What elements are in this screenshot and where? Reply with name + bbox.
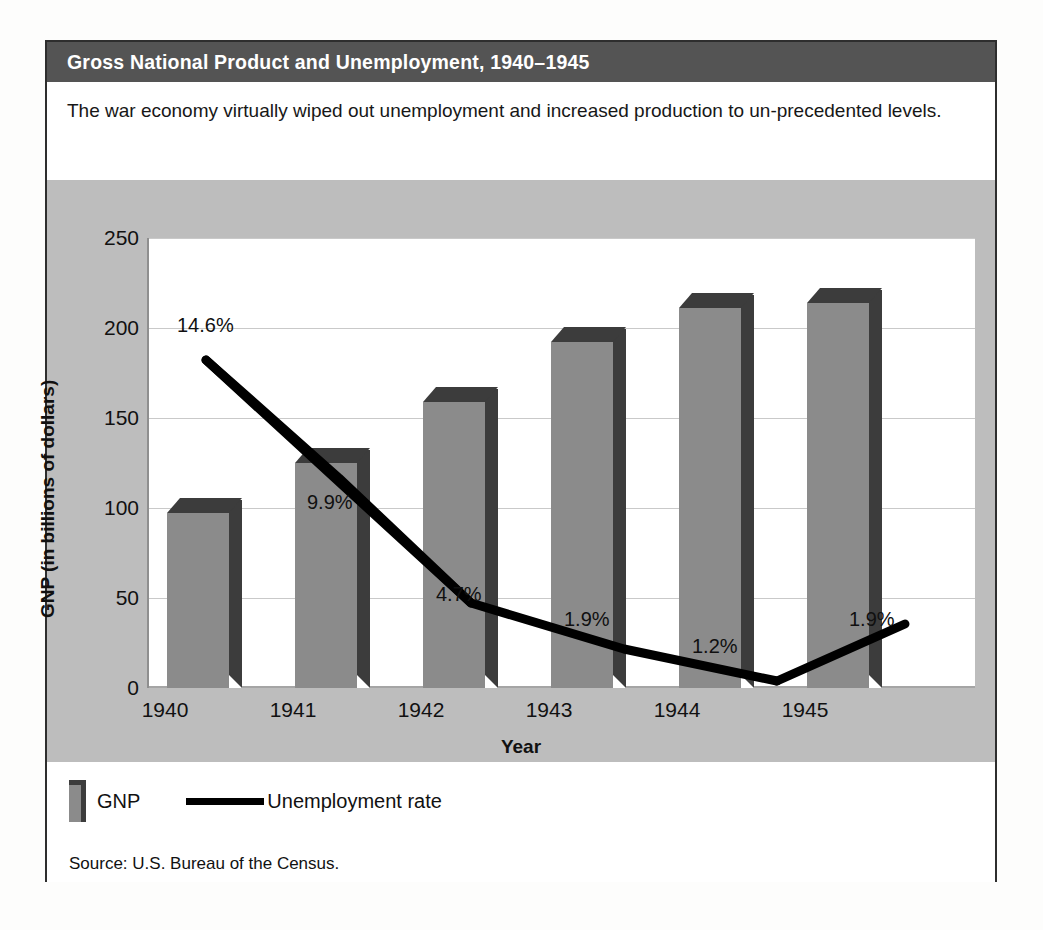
unemployment-line-path <box>206 360 777 681</box>
unemployment-line-swatch-icon <box>186 798 264 805</box>
figure-title-bar: Gross National Product and Unemployment,… <box>47 42 995 82</box>
figure-caption: The war economy virtually wiped out unem… <box>67 96 975 126</box>
y-tick-200: 200 <box>69 316 139 340</box>
unemployment-line-path-right <box>777 624 905 681</box>
data-label-1942: 4.7% <box>436 583 482 606</box>
x-axis-title: Year <box>47 736 995 758</box>
x-tick-1940: 1940 <box>110 698 220 722</box>
y-axis-ticks: 250 200 150 100 50 0 <box>47 238 139 688</box>
source-note: Source: U.S. Bureau of the Census. <box>69 854 339 874</box>
data-label-1943: 1.9% <box>564 608 610 631</box>
x-tick-1942: 1942 <box>366 698 476 722</box>
data-label-1940: 14.6% <box>177 314 234 337</box>
y-tick-50: 50 <box>69 586 139 610</box>
plot-area: 14.6% 9.9% 4.7% 1.9% 1.2% 1.9% <box>147 238 975 688</box>
legend-label-gnp: GNP <box>97 790 140 813</box>
y-tick-100: 100 <box>69 496 139 520</box>
unemployment-line-path-left <box>206 360 471 603</box>
data-label-1945: 1.9% <box>849 608 895 631</box>
x-tick-1945: 1945 <box>750 698 860 722</box>
y-tick-0: 0 <box>69 676 139 700</box>
x-tick-1944: 1944 <box>622 698 732 722</box>
data-label-1941: 9.9% <box>307 491 353 514</box>
figure-page: Gross National Product and Unemployment,… <box>0 0 1043 930</box>
y-tick-150: 150 <box>69 406 139 430</box>
figure-frame: Gross National Product and Unemployment,… <box>45 40 997 882</box>
y-axis-title: GNP (in billions of dollars) <box>37 380 59 618</box>
x-tick-1941: 1941 <box>238 698 348 722</box>
gnp-bar-swatch-icon <box>69 780 86 822</box>
chart-area: 250 200 150 100 50 0 GNP (in billions of… <box>47 180 995 762</box>
legend-label-unemployment: Unemployment rate <box>267 790 442 813</box>
data-label-1944: 1.2% <box>692 635 738 658</box>
legend-row: GNP Unemployment rate <box>69 780 442 822</box>
x-tick-1943: 1943 <box>494 698 604 722</box>
page-title: Gross National Product and Unemployment,… <box>67 51 590 74</box>
legend-area: GNP Unemployment rate Source: U.S. Burea… <box>47 762 995 882</box>
figure-caption-area: The war economy virtually wiped out unem… <box>47 82 995 180</box>
y-tick-250: 250 <box>69 226 139 250</box>
